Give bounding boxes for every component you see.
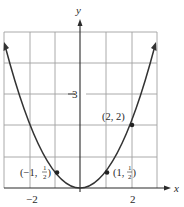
svg-text:): ) xyxy=(48,167,52,179)
point-neg1-half xyxy=(55,170,60,175)
svg-text:(1,: (1, xyxy=(113,167,124,179)
x-axis-arrow-icon xyxy=(164,186,171,191)
svg-text:(−1,: (−1, xyxy=(20,167,37,179)
point-2-2 xyxy=(130,123,135,128)
point-1-half xyxy=(105,170,110,175)
parabola-chart: y x 3 −2 2 (2, 2) (−1, 1 2 ) (1, 1 2 ) xyxy=(0,0,184,207)
x-axis-label: x xyxy=(173,182,179,194)
svg-text:2: 2 xyxy=(128,173,132,181)
svg-text:2: 2 xyxy=(43,173,47,181)
y-axis-label: y xyxy=(75,4,81,16)
svg-text:): ) xyxy=(133,167,137,179)
x-tick-neg2: −2 xyxy=(26,193,38,205)
label-point-neg1-half: (−1, 1 2 ) xyxy=(20,164,52,181)
label-point-1-half: (1, 1 2 ) xyxy=(113,164,137,181)
label-point-2-2: (2, 2) xyxy=(102,111,125,123)
svg-text:1: 1 xyxy=(43,164,47,172)
x-tick-2: 2 xyxy=(130,193,136,205)
y-tick-3: 3 xyxy=(72,88,78,100)
svg-text:1: 1 xyxy=(128,164,132,172)
y-axis-arrow-icon xyxy=(78,19,83,26)
